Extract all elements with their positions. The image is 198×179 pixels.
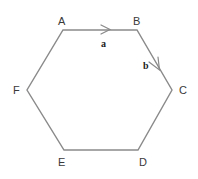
vertex-label-A: A: [58, 16, 65, 27]
vertex-label-D: D: [139, 157, 147, 168]
vertex-label-E: E: [58, 157, 65, 168]
vertex-label-C: C: [179, 85, 187, 96]
hexagon-outline: [27, 30, 172, 150]
vector-label-b: b: [143, 61, 149, 71]
vertex-label-F: F: [13, 85, 20, 96]
vertex-label-B: B: [133, 16, 140, 27]
hexagon-diagram-svg: [0, 0, 198, 179]
vector-label-a: a: [101, 39, 106, 49]
hexagon-figure: A B C D E F a b: [0, 0, 198, 179]
